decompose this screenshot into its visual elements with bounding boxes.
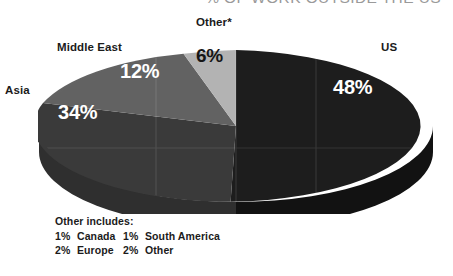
footnote-title: Other includes: [55,214,220,228]
footnote-row: 2%Europe2%Other [55,243,220,257]
pie-label-other: Other* [196,16,232,28]
footnote-percent: 1% [123,229,145,243]
pie-value-other: 6% [196,45,223,67]
footnote-percent: 2% [123,243,145,257]
pie-chart [38,38,434,214]
chart-headline: % OF WORK OUTSIDE THE US [0,0,453,7]
footnote-name: Europe [77,244,114,256]
footnote-row: 1%Canada1%South America [55,229,220,243]
pie-label-middle-east: Middle East [57,41,122,53]
pie-value-asia: 34% [58,101,97,124]
footnote-cell: 1%Canada [55,229,123,243]
pie-label-asia: Asia [5,84,30,96]
footnote-name: Canada [77,230,116,242]
pie-label-us: US [381,41,397,53]
footnote-block: Other includes: 1%Canada1%South America … [55,214,220,257]
footnote-percent: 1% [55,229,77,243]
chart-canvas: % OF WORK OUTSIDE THE US [0,0,453,276]
footnote-cell: 2%Europe [55,243,123,257]
footnote-cell: 1%South America [123,229,220,243]
footnote-cell: 2%Other [123,243,174,257]
footnote-name: South America [145,230,220,242]
footnote-percent: 2% [55,243,77,257]
pie-chart-svg [38,38,434,214]
footnote-name: Other [145,244,174,256]
pie-value-us: 48% [333,76,372,99]
pie-value-middle-east: 12% [120,60,159,83]
